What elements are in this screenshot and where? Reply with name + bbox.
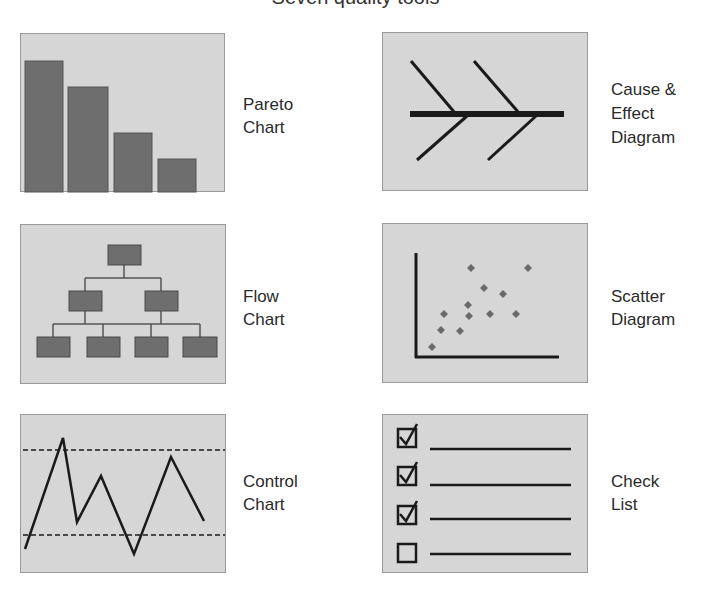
flow-chart-panel — [20, 224, 226, 384]
pareto-chart-panel — [20, 33, 225, 192]
control-chart-graphic — [21, 415, 227, 574]
label-line: Chart — [243, 308, 285, 331]
flow-box-bottom-3 — [135, 337, 168, 357]
page-title-clipped: Seven quality tools — [0, 0, 711, 6]
label-line: Effect — [611, 102, 676, 126]
flow-box-mid-left — [69, 291, 102, 311]
label-line: List — [611, 493, 659, 516]
flow-box-top — [108, 245, 141, 265]
check-list-graphic — [383, 415, 589, 574]
label-line: Control — [243, 470, 298, 493]
control-chart-panel — [20, 414, 226, 573]
label-line: Cause & — [611, 78, 676, 102]
label-line: Check — [611, 470, 659, 493]
pareto-bar-2 — [68, 87, 108, 192]
scatter-diagram-panel — [382, 223, 588, 383]
flow-box-mid-right — [145, 291, 178, 311]
pareto-bar-4 — [158, 159, 196, 192]
pareto-chart-label: Pareto Chart — [243, 93, 293, 139]
control-chart-label: Control Chart — [243, 470, 298, 516]
flow-chart-label: Flow Chart — [243, 285, 285, 331]
cause-effect-panel — [382, 32, 588, 191]
check-list-label: Check List — [611, 470, 659, 516]
pareto-bar-1 — [25, 61, 63, 192]
pareto-bars-graphic — [21, 34, 226, 193]
label-line: Chart — [243, 493, 298, 516]
flow-chart-graphic — [21, 225, 227, 385]
flow-box-bottom-1 — [37, 337, 70, 357]
label-line: Flow — [243, 285, 285, 308]
label-line: Diagram — [611, 308, 675, 331]
checkbox-empty-icon — [398, 544, 416, 562]
label-line: Pareto — [243, 93, 293, 116]
scatter-diagram-label: Scatter Diagram — [611, 285, 675, 331]
check-list-panel — [382, 414, 588, 573]
cause-effect-label: Cause & Effect Diagram — [611, 78, 676, 150]
flow-box-bottom-4 — [183, 337, 217, 357]
flow-box-bottom-2 — [87, 337, 120, 357]
label-line: Chart — [243, 116, 293, 139]
label-line: Scatter — [611, 285, 675, 308]
pareto-bar-3 — [114, 133, 152, 192]
fishbone-graphic — [383, 33, 589, 192]
label-line: Diagram — [611, 126, 676, 150]
scatter-graphic — [383, 224, 589, 384]
